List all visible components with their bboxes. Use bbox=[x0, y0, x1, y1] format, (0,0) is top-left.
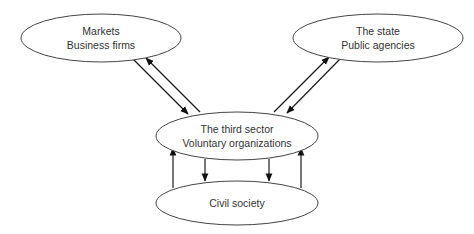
arrow-state-to-third-sector bbox=[287, 58, 341, 113]
markets-label-line-2: Business firms bbox=[67, 39, 135, 51]
markets-ellipse bbox=[21, 14, 181, 62]
third-sector-ellipse bbox=[156, 112, 318, 160]
node-third-sector: The third sector Voluntary organizations bbox=[156, 112, 318, 160]
third-sector-label-line-2: Voluntary organizations bbox=[182, 137, 291, 149]
third-sector-diagram: Markets Business firms The state Public … bbox=[0, 0, 474, 234]
node-civil-society: Civil society bbox=[156, 181, 318, 225]
state-label-line-1: The state bbox=[356, 25, 400, 37]
nodes-group: Markets Business firms The state Public … bbox=[21, 14, 463, 225]
state-label-line-2: Public agencies bbox=[341, 39, 415, 51]
markets-label-line-1: Markets bbox=[82, 25, 119, 37]
node-markets: Markets Business firms bbox=[21, 14, 181, 62]
arrow-third-sector-to-markets bbox=[146, 58, 200, 112]
third-sector-label-line-1: The third sector bbox=[201, 123, 274, 135]
arrow-markets-to-third-sector bbox=[133, 59, 188, 114]
node-state: The state Public agencies bbox=[293, 14, 463, 62]
state-ellipse bbox=[293, 14, 463, 62]
civil-society-label: Civil society bbox=[209, 197, 265, 209]
arrow-third-sector-to-state bbox=[274, 57, 329, 112]
